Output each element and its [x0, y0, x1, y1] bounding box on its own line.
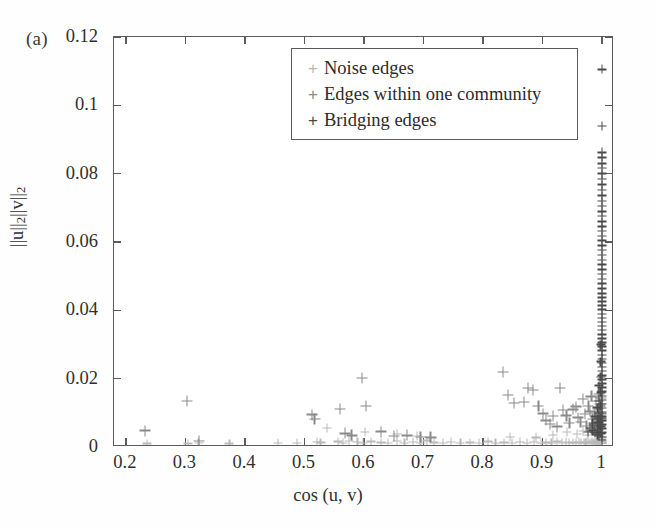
data-point — [596, 357, 605, 366]
data-point — [446, 437, 455, 445]
data-point — [497, 366, 508, 377]
data-point — [388, 431, 399, 442]
data-point — [360, 427, 369, 436]
x-axis-tick — [423, 37, 424, 44]
data-point — [598, 121, 607, 130]
data-point — [425, 432, 436, 443]
data-point — [316, 438, 325, 445]
data-point — [346, 430, 357, 441]
y-axis-tick-label: 0.1 — [75, 94, 98, 115]
y-axis-tick — [114, 378, 121, 379]
data-point — [532, 433, 541, 442]
x-axis-tick — [125, 37, 126, 44]
legend-item: + Bridging edges — [302, 107, 577, 133]
legend-label: Noise edges — [324, 58, 414, 79]
y-axis-title: ||u||2||v||2 — [7, 137, 29, 297]
legend-marker-community-icon: + — [302, 86, 324, 103]
legend-marker-bridging-icon: + — [302, 112, 324, 129]
data-point — [474, 438, 483, 445]
x-axis-tick — [185, 37, 186, 44]
data-point — [583, 427, 592, 436]
y-axis-tick-label: 0.12 — [66, 26, 98, 47]
data-point — [323, 424, 332, 433]
y-axis-tick-label: 0.04 — [66, 299, 98, 320]
x-axis-tick-label: 0.3 — [173, 452, 196, 473]
x-axis-tick-label: 0.9 — [530, 452, 553, 473]
figure-panel: (a) 00.020.040.060.080.10.12 ||u||2||v||… — [0, 0, 656, 528]
data-point — [335, 403, 346, 414]
legend-label: Edges within one community — [324, 84, 541, 105]
data-point — [456, 439, 465, 445]
data-point — [357, 372, 368, 383]
data-point — [562, 428, 571, 437]
x-axis-tick — [542, 37, 543, 44]
data-point — [528, 385, 539, 396]
x-axis-tick — [244, 438, 245, 445]
y-axis-tick — [114, 241, 121, 242]
data-point — [184, 439, 193, 445]
y-axis-tick — [114, 173, 121, 174]
legend-marker-noise-icon: + — [302, 60, 324, 77]
data-point — [554, 383, 565, 394]
x-axis-tick-label: 0.7 — [411, 452, 434, 473]
data-point — [293, 439, 302, 445]
data-point — [309, 413, 320, 424]
legend-label: Bridging edges — [324, 110, 437, 131]
x-axis-tick-label: 0.5 — [292, 452, 315, 473]
x-axis-tick — [125, 438, 126, 445]
legend: + Noise edges + Edges within one communi… — [291, 48, 578, 140]
data-point — [598, 65, 607, 74]
y-axis-tick — [114, 37, 121, 38]
x-axis-tick-labels: 0.20.30.40.50.60.70.80.91 — [113, 452, 613, 480]
data-point — [194, 435, 205, 445]
y-axis-tick — [605, 105, 612, 106]
data-point — [182, 396, 193, 407]
x-axis-tick — [363, 37, 364, 44]
legend-item: + Noise edges — [302, 55, 577, 81]
data-point — [143, 439, 152, 445]
data-point — [273, 438, 282, 445]
y-axis-tick-label: 0 — [89, 436, 98, 457]
x-axis-tick — [304, 37, 305, 44]
data-point — [367, 437, 376, 445]
data-point — [519, 396, 530, 407]
x-axis-tick — [244, 37, 245, 44]
data-point — [401, 430, 412, 441]
y-axis-tick — [114, 310, 121, 311]
x-axis-tick-label: 0.2 — [113, 452, 136, 473]
y-axis-tick — [605, 37, 612, 38]
x-axis-tick-label: 0.8 — [470, 452, 493, 473]
x-axis-tick — [304, 438, 305, 445]
data-point — [505, 432, 514, 441]
data-point — [225, 439, 234, 445]
x-axis-tick-label: 1 — [596, 452, 605, 473]
x-axis-tick — [482, 37, 483, 44]
data-point — [596, 340, 605, 349]
y-axis-tick-label: 0.02 — [66, 367, 98, 388]
data-point — [139, 425, 150, 436]
legend-item: + Edges within one community — [302, 81, 577, 107]
data-point — [465, 438, 474, 445]
data-point — [376, 426, 387, 437]
y-axis-tick — [114, 105, 121, 106]
data-point — [595, 381, 604, 390]
x-axis-tick-label: 0.4 — [232, 452, 255, 473]
x-axis-tick — [601, 37, 602, 44]
x-axis-title: cos (u, v) — [0, 485, 656, 506]
y-axis-tick-label: 0.08 — [66, 162, 98, 183]
data-point — [551, 421, 562, 432]
data-point — [360, 401, 371, 412]
y-axis-tick-label: 0.06 — [66, 231, 98, 252]
x-axis-tick-label: 0.6 — [351, 452, 374, 473]
